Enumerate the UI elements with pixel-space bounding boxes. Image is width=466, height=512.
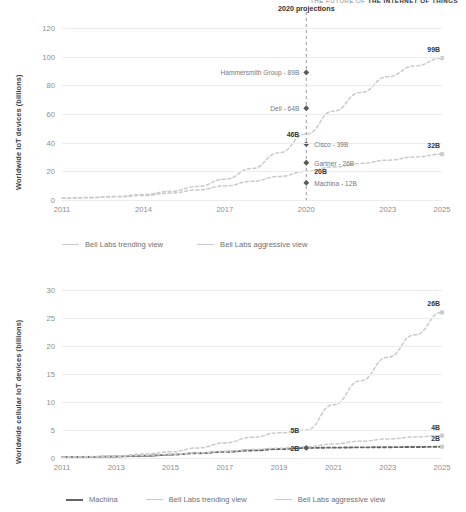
gridline <box>62 290 442 291</box>
x-axis-tick-label: 2021 <box>325 463 342 472</box>
x-axis-tick-label: 2025 <box>434 205 451 214</box>
series-endpoint-marker <box>440 433 445 438</box>
data-annotation: 32B <box>427 142 440 149</box>
projection-diamond-marker <box>303 70 309 76</box>
x-axis-tick-label: 2014 <box>135 205 152 214</box>
legend-label: Bell Labs aggressive view <box>220 240 307 249</box>
x-axis-tick-label: 2013 <box>108 463 125 472</box>
legend-swatch-icon <box>66 499 83 501</box>
y-axis-tick-label: 30 <box>47 286 55 295</box>
series-line <box>62 58 442 198</box>
chart-worldwide-iot-devices: Worldwide IoT devices (billions) 0204060… <box>0 0 466 262</box>
x-axis-tick-label: 2017 <box>216 463 233 472</box>
x-axis-tick-label: 2019 <box>271 463 288 472</box>
projection-diamond-marker <box>303 180 309 186</box>
y-axis-tick-label: 10 <box>47 398 55 407</box>
gridline <box>62 458 442 459</box>
data-annotation: Dell - 64B <box>270 105 299 112</box>
projection-diamond-marker <box>303 160 309 166</box>
x-axis-tick-label: 2017 <box>216 205 233 214</box>
data-annotation: Gartner - 26B <box>314 159 354 166</box>
gridline <box>62 200 442 201</box>
x-axis-tick-label: 2023 <box>379 205 396 214</box>
data-annotation: 20B <box>314 168 327 175</box>
projection-diamond-marker <box>303 445 309 451</box>
series-endpoint-marker <box>440 445 445 450</box>
legend-label: Machina <box>89 495 118 504</box>
legend-label: Bell Labs aggressive view <box>298 495 385 504</box>
legend-item[interactable]: Bell Labs trending view <box>146 495 247 504</box>
series-line <box>62 154 442 198</box>
chart1-legend: Bell Labs trending viewBell Labs aggress… <box>62 240 307 249</box>
data-annotation: Hammersmith Group - 89B <box>221 69 300 76</box>
legend-swatch-icon <box>275 499 292 500</box>
gridline <box>62 402 442 403</box>
y-axis-tick-label: 80 <box>47 81 55 90</box>
legend-swatch-icon <box>146 499 163 500</box>
chart1-plot-area: 0204060801001202011201420172020202320252… <box>62 28 442 200</box>
data-annotation: 5B <box>290 427 299 434</box>
y-axis-tick-label: 60 <box>47 110 55 119</box>
projection-diamond-marker <box>303 105 309 111</box>
y-axis-tick-label: 25 <box>47 314 55 323</box>
x-axis-tick-label: 2025 <box>434 463 451 472</box>
x-axis-tick-label: 2011 <box>54 205 70 214</box>
y-axis-tick-label: 100 <box>42 52 55 61</box>
gridline <box>62 57 442 58</box>
data-annotation: Machina - 12B <box>314 179 357 186</box>
data-annotation: 4B <box>431 423 440 430</box>
series-endpoint-marker <box>440 152 445 157</box>
series-line <box>62 312 442 457</box>
data-annotation: 2B <box>290 444 299 451</box>
gridline <box>62 85 442 86</box>
gridline <box>62 374 442 375</box>
legend-item[interactable]: Machina <box>66 495 118 504</box>
projection-label: 2020 projections <box>278 4 335 13</box>
x-axis-tick-label: 2023 <box>379 463 396 472</box>
gridline <box>62 430 442 431</box>
legend-item[interactable]: Bell Labs aggressive view <box>197 240 307 249</box>
data-annotation: 2B <box>431 434 440 441</box>
x-axis-tick-label: 2011 <box>54 463 70 472</box>
legend-label: Bell Labs trending view <box>85 240 163 249</box>
y-axis-tick-label: 0 <box>51 196 55 205</box>
y-axis-tick-label: 15 <box>47 370 55 379</box>
chart-worldwide-cellular-iot-devices: Worldwide cellular IoT devices (billions… <box>0 268 466 512</box>
legend-swatch-icon <box>197 244 214 245</box>
y-axis-tick-label: 20 <box>47 342 55 351</box>
gridline <box>62 143 442 144</box>
series-endpoint-marker <box>440 310 445 315</box>
data-annotation: 26B <box>427 300 440 307</box>
legend-item[interactable]: Bell Labs aggressive view <box>275 495 385 504</box>
gridline <box>62 171 442 172</box>
chart1-y-axis-label: Worldwide IoT devices (billions) <box>14 74 23 190</box>
page-root: THE FUTURE OF THE INTERNET OF THINGS Wor… <box>0 0 466 512</box>
legend-label: Bell Labs trending view <box>169 495 247 504</box>
x-axis-tick-label: 2015 <box>162 463 179 472</box>
gridline <box>62 318 442 319</box>
chart2-legend: MachinaBell Labs trending viewBell Labs … <box>66 495 385 504</box>
gridline <box>62 28 442 29</box>
gridline <box>62 114 442 115</box>
x-axis-tick-label: 2020 <box>298 205 315 214</box>
legend-item[interactable]: Bell Labs trending view <box>62 240 163 249</box>
y-axis-tick-label: 20 <box>47 167 55 176</box>
data-annotation: 46B <box>287 131 300 138</box>
legend-swatch-icon <box>62 244 79 245</box>
chart2-plot-area: 0510152025302011201320152017201920212023… <box>62 290 442 458</box>
data-annotation: Cisco - 39B <box>314 141 348 148</box>
y-axis-tick-label: 40 <box>47 138 55 147</box>
y-axis-tick-label: 0 <box>51 454 55 463</box>
chart2-y-axis-label: Worldwide cellular IoT devices (billions… <box>14 320 23 464</box>
data-annotation: 99B <box>427 46 440 53</box>
gridline <box>62 346 442 347</box>
y-axis-tick-label: 5 <box>51 426 55 435</box>
y-axis-tick-label: 120 <box>42 24 55 33</box>
